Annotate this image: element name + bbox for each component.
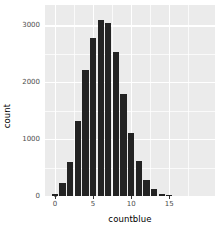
histogram-bar (67, 162, 73, 196)
gridline-minor-vertical (188, 5, 189, 196)
x-axis-tick-label: 5 (91, 200, 95, 208)
gridline-minor-horizontal (45, 54, 215, 55)
gridline-major-vertical (169, 5, 170, 196)
x-axis: 051015 (45, 196, 215, 212)
y-axis-tick-label: 2000 (22, 78, 40, 86)
histogram-bar (82, 70, 88, 196)
gridline-minor-vertical (150, 5, 151, 196)
y-axis-tick-label: 1000 (22, 135, 40, 143)
histogram-bar (151, 189, 157, 196)
x-axis-tick-mark (93, 196, 94, 199)
histogram-bar (113, 52, 119, 196)
x-axis-tick-label: 15 (165, 200, 174, 208)
x-axis-tick-label: 10 (127, 200, 136, 208)
y-axis-tick-label: 3000 (22, 21, 40, 29)
gridline-major-vertical (55, 5, 56, 196)
gridline-major-horizontal (45, 25, 215, 26)
histogram-bar (128, 133, 134, 196)
histogram-bar (75, 121, 81, 196)
histogram-plot: count 0100020003000 051015 countblue (0, 0, 222, 232)
histogram-bar (98, 20, 104, 196)
x-axis-tick-mark (169, 196, 170, 199)
y-axis-tick-label: 0 (36, 192, 40, 200)
histogram-bar (59, 183, 65, 196)
y-axis-tick-labels: 0100020003000 (13, 5, 40, 196)
gridline-minor-horizontal (45, 111, 215, 112)
x-axis-tick-label: 0 (53, 200, 57, 208)
histogram-bar (105, 23, 111, 196)
plot-panel (45, 5, 215, 196)
gridline-major-horizontal (45, 82, 215, 83)
histogram-bar (143, 180, 149, 196)
x-axis-tick-mark (55, 196, 56, 199)
histogram-bar (90, 38, 96, 196)
histogram-bar (136, 161, 142, 196)
y-axis-title: count (0, 0, 14, 232)
x-axis-tick-mark (131, 196, 132, 199)
x-axis-title: countblue (45, 214, 215, 224)
histogram-bar (120, 94, 126, 196)
